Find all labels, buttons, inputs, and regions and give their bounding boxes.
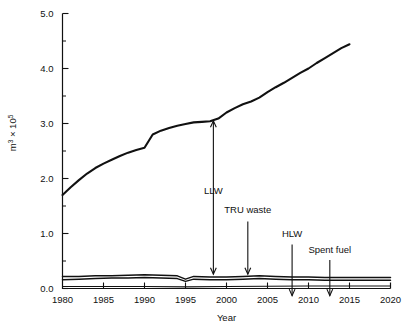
y-tick-label: 0.0 [40, 283, 53, 294]
annotation-label-hlw: HLW [282, 228, 302, 239]
annotation-label-spent-fuel: Spent fuel [308, 244, 351, 255]
x-tick-label: 2000 [216, 294, 237, 305]
x-axis-title: Year [217, 312, 236, 323]
y-axis-title: m3 × 105 [7, 114, 19, 151]
y-tick-label: 5.0 [40, 8, 53, 19]
x-tick-label: 2015 [339, 294, 360, 305]
y-tick-label: 1.0 [40, 228, 53, 239]
x-tick-label: 1980 [52, 294, 73, 305]
chart-figure: 0.01.02.03.04.05.01980198519901995200020… [0, 0, 403, 326]
series-line-baseline [63, 286, 391, 287]
x-tick-label: 2020 [380, 294, 401, 305]
x-tick-label: 2010 [298, 294, 319, 305]
series-line-total [63, 44, 350, 195]
x-tick-label: 1995 [175, 294, 196, 305]
x-tick-label: 1985 [93, 294, 114, 305]
y-tick-label: 3.0 [40, 118, 53, 129]
y-tick-label: 2.0 [40, 173, 53, 184]
annotation-label-llw: LLW [204, 185, 223, 196]
x-tick-label: 1990 [134, 294, 155, 305]
waste-volume-line-chart: 0.01.02.03.04.05.01980198519901995200020… [0, 0, 403, 326]
x-tick-label: 2005 [257, 294, 278, 305]
svg-text:m3 × 105: m3 × 105 [7, 114, 19, 151]
y-tick-label: 4.0 [40, 63, 53, 74]
annotation-label-tru-waste: TRU waste [224, 204, 271, 215]
